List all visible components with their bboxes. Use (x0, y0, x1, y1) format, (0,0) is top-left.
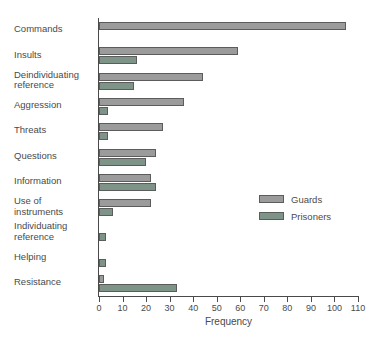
category-label: Commands (14, 24, 96, 35)
chart-legend: Guards Prisoners (259, 192, 331, 226)
x-tick-label: 70 (251, 303, 277, 314)
x-tick-label: 0 (86, 303, 112, 314)
legend-item-guards: Guards (259, 192, 331, 206)
x-tick-label: 60 (227, 303, 253, 314)
x-tick-mark (358, 297, 359, 302)
bar-prisoners-deindividuating-reference (99, 82, 134, 90)
x-tick-label: 50 (204, 303, 230, 314)
bar-guards-insults (99, 47, 238, 55)
bar-prisoners-individuating-reference (99, 233, 106, 241)
bar-chart: CommandsInsultsDeindividuating reference… (0, 0, 379, 344)
bar-prisoners-questions (99, 158, 146, 166)
x-tick-mark (123, 297, 124, 302)
bar-guards-deindividuating-reference (99, 73, 203, 81)
category-label: Threats (14, 125, 96, 136)
bar-prisoners-use-of-instruments (99, 208, 113, 216)
x-tick-mark (99, 297, 100, 302)
x-tick-label: 20 (133, 303, 159, 314)
bar-guards-aggression (99, 98, 184, 106)
legend-swatch-guards (259, 195, 284, 203)
category-label: Resistance (14, 277, 96, 288)
bar-guards-resistance (99, 275, 104, 283)
category-label: Aggression (14, 100, 96, 111)
bar-prisoners-information (99, 183, 156, 191)
x-tick-mark (240, 297, 241, 302)
category-label: Insults (14, 50, 96, 61)
x-tick-label: 30 (157, 303, 183, 314)
x-tick-mark (170, 297, 171, 302)
x-tick-label: 110 (345, 303, 371, 314)
x-tick-label: 10 (110, 303, 136, 314)
x-tick-mark (146, 297, 147, 302)
category-label: Use of instruments (14, 196, 96, 217)
bar-prisoners-helping (99, 259, 106, 267)
bar-guards-threats (99, 123, 163, 131)
category-label: Questions (14, 151, 96, 162)
legend-label-prisoners: Prisoners (291, 211, 331, 222)
x-tick-label: 100 (321, 303, 347, 314)
x-tick-mark (287, 297, 288, 302)
category-label: Helping (14, 252, 96, 263)
bar-prisoners-insults (99, 56, 137, 64)
x-axis-line (98, 296, 359, 297)
category-label: Information (14, 176, 96, 187)
category-label: Individuating reference (14, 221, 96, 242)
x-tick-label: 90 (298, 303, 324, 314)
x-tick-label: 80 (274, 303, 300, 314)
bar-guards-questions (99, 149, 156, 157)
x-tick-mark (264, 297, 265, 302)
x-tick-label: 40 (180, 303, 206, 314)
legend-swatch-prisoners (259, 212, 284, 220)
bar-guards-use-of-instruments (99, 199, 151, 207)
bar-guards-information (99, 174, 151, 182)
bar-prisoners-threats (99, 132, 108, 140)
legend-item-prisoners: Prisoners (259, 209, 331, 223)
x-tick-mark (334, 297, 335, 302)
x-axis-title: Frequency (99, 316, 358, 327)
bar-prisoners-resistance (99, 284, 177, 292)
x-tick-mark (217, 297, 218, 302)
x-tick-mark (193, 297, 194, 302)
category-label: Deindividuating reference (14, 70, 96, 91)
legend-label-guards: Guards (291, 194, 322, 205)
x-tick-mark (311, 297, 312, 302)
bar-guards-commands (99, 22, 346, 30)
bar-prisoners-aggression (99, 107, 108, 115)
